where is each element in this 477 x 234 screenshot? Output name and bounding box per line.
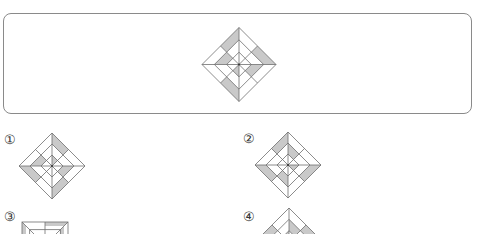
shaded-cell (277, 171, 288, 188)
shaded-cell (255, 225, 278, 234)
option-3-square-figure[interactable] (22, 222, 68, 234)
shaded-cell (58, 166, 75, 177)
shaded-cell (233, 65, 239, 77)
option-2-diamond-figure[interactable] (255, 132, 321, 198)
shaded-cell (214, 52, 233, 64)
figures-canvas (0, 0, 477, 234)
question-diamond-figure (202, 28, 276, 102)
option-4-diamond-figure[interactable] (255, 208, 323, 234)
shaded-cell (288, 143, 299, 160)
shaded-cell (300, 225, 323, 234)
shaded-cell (30, 155, 47, 166)
shaded-cell (288, 165, 299, 171)
shaded-cell (245, 65, 263, 77)
option-1-diamond-figure[interactable] (19, 133, 85, 199)
shaded-cell (52, 155, 58, 166)
